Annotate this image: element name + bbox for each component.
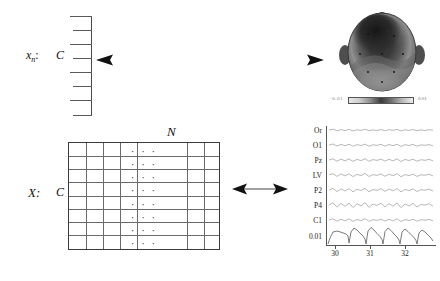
eeg-channel-label: Or — [314, 126, 322, 135]
eeg-x-tick-label: 32 — [401, 249, 409, 258]
colorbar-min-label: -0.01 — [330, 96, 343, 101]
eeg-trace-group — [326, 126, 436, 246]
matrix-name-X: X — [28, 185, 36, 200]
data-matrix-X: · · · · · · · · · · · · · · · · · · · · … — [68, 142, 220, 250]
eeg-timeseries-plot: Or O1 Pz LV P2 P4 C1 0.01 — [298, 126, 438, 258]
topomap-colorbar — [348, 97, 414, 104]
matrix-ellipsis: · · · — [69, 171, 219, 183]
eeg-trace-P4 — [329, 203, 433, 208]
column-vector-xn — [70, 16, 92, 116]
column-vector-tick — [73, 86, 92, 87]
vector-dim-label-C: C — [56, 48, 64, 63]
column-vector-spine — [91, 16, 92, 116]
matrix-col-dim-label-N: N — [167, 124, 176, 140]
matrix-row-dim-label-C: C — [56, 185, 64, 200]
column-vector-tick — [73, 115, 92, 116]
eeg-channel-label: P4 — [314, 201, 322, 210]
eeg-trace-LV — [329, 174, 433, 177]
column-vector-tick — [70, 16, 92, 17]
matrix-row-divider — [69, 196, 219, 197]
column-vector-tick — [70, 72, 92, 73]
eeg-plot-area: 30 31 32 — [326, 126, 436, 246]
figure-canvas: xn: C X: C N — [0, 0, 440, 281]
eeg-channel-label-list: Or O1 Pz LV P2 P4 C1 0.01 — [298, 126, 324, 240]
column-vector-tick — [70, 44, 92, 45]
eeg-trace-P2 — [329, 188, 433, 192]
matrix-to-eeg-arrow — [232, 181, 288, 197]
matrix-colon: : — [36, 185, 40, 200]
matrix-ellipsis: · · · — [69, 237, 219, 249]
matrix-ellipsis: · · · — [69, 198, 219, 210]
matrix-ellipsis: · · · — [69, 184, 219, 196]
eeg-x-tick-label: 30 — [331, 249, 339, 258]
eeg-trace-O1 — [329, 144, 433, 146]
eeg-channel-scale-label: 0.01 — [309, 232, 322, 241]
matrix-ellipsis: · · · — [69, 224, 219, 236]
eeg-trace-C1 — [329, 219, 433, 222]
column-vector-tick — [73, 30, 92, 31]
eeg-channel-label: C1 — [313, 216, 322, 225]
eeg-trace-Pz — [329, 159, 433, 162]
vector-name-label: xn: — [26, 48, 39, 64]
vector-colon: : — [35, 48, 38, 62]
eeg-channel-label: LV — [313, 171, 322, 180]
matrix-ellipsis: · · · — [69, 211, 219, 223]
eeg-x-tick-label: 31 — [366, 249, 374, 258]
eeg-channel-label: Pz — [315, 156, 323, 165]
eeg-trace-main-spiky — [328, 228, 433, 245]
vector-to-topomap-arrow — [96, 52, 324, 68]
colorbar-max-label: 0.01 — [418, 96, 427, 101]
matrix-ellipsis: · · · — [69, 145, 219, 157]
scalp-topography-map — [330, 10, 434, 94]
matrix-ellipsis: · · · — [69, 158, 219, 170]
matrix-name-label: X: — [28, 185, 40, 201]
eeg-channel-label: P2 — [314, 186, 322, 195]
column-vector-tick — [70, 100, 92, 101]
column-vector-tick — [73, 58, 92, 59]
eeg-channel-label: O1 — [313, 141, 322, 150]
eeg-trace-Or — [329, 129, 433, 131]
